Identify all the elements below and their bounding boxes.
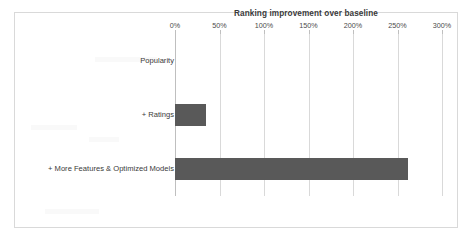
tickmark-300: [442, 30, 443, 34]
x-tick-label-200: 200%: [336, 21, 370, 30]
x-tick-label-50: 50%: [203, 21, 237, 30]
category-label: + Ratings: [18, 110, 174, 119]
x-tick-label-100: 100%: [247, 21, 281, 30]
x-axis-tick-labels: 0%50%100%150%200%250%300%: [161, 21, 451, 32]
chart-title: Ranking improvement over baseline: [161, 9, 451, 18]
category-axis-labels: Popularity+ Ratings+ More Features & Opt…: [18, 34, 174, 196]
x-tick-label-150: 150%: [292, 21, 326, 30]
plot-inner: [175, 34, 442, 196]
category-label: Popularity: [18, 56, 174, 65]
plot-area: [161, 34, 451, 208]
bars-layer: [175, 34, 442, 196]
gridline-300: [442, 34, 443, 196]
x-tick-label-250: 250%: [381, 21, 415, 30]
x-tick-label-0: 0%: [158, 21, 192, 30]
bar-row: [175, 142, 442, 196]
category-label: + More Features & Optimized Models: [18, 164, 174, 173]
x-tick-label-300: 300%: [425, 21, 459, 30]
bar[interactable]: [175, 158, 408, 180]
bar-row: [175, 34, 442, 88]
bar-row: [175, 88, 442, 142]
bar[interactable]: [175, 104, 206, 126]
